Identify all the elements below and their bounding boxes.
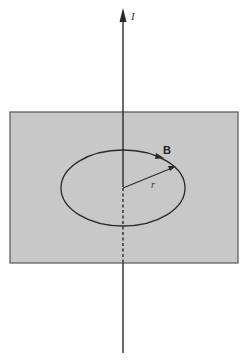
current-arrow-icon [120,8,127,22]
wire-field-diagram: I B r [0,0,245,362]
current-label: I [130,10,136,22]
radius-label: r [151,179,155,190]
field-label: B [163,144,171,156]
